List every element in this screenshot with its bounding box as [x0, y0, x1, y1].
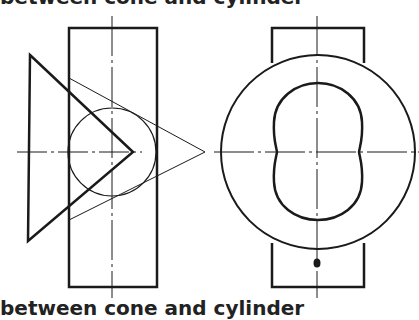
apex-point [314, 259, 321, 268]
cone-triangle-thick [28, 55, 133, 241]
front-view [17, 16, 205, 298]
side-view [214, 16, 419, 298]
caption-bottom: between cone and cylinder [0, 298, 304, 318]
cone-silhouette-thin [69, 78, 205, 220]
side-cylinder-top [272, 28, 364, 63]
front-cylinder-outline [69, 28, 157, 287]
